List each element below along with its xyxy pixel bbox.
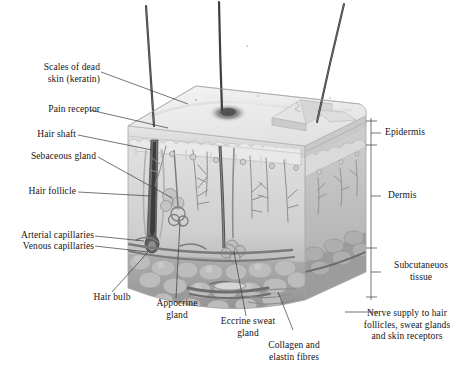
label-collagen-and-elastin-fibres: Collagen and elastin fibres [257,340,331,363]
skin-cross-section-figure: Scales of dead skin (keratin) Pain recep… [0,0,461,376]
label-sebaceous-gland: Sebaceous gland [8,151,96,163]
label-scales-of-dead-skin: Scales of dead skin (keratin) [8,62,100,85]
label-hair-shaft: Hair shaft [8,129,76,141]
label-eccrine-sweat-gland: Eccrine sweat gland [212,316,284,339]
label-hair-follicle: Hair follicle [8,186,76,198]
label-venous-capillaries: Venous capillaries [4,241,94,253]
label-appocrine-gland: Appocrine gland [146,298,208,321]
label-arterial-capillaries: Arterial capillaries [4,230,94,242]
label-nerve-supply: Nerve supply to hair follicles, sweat gl… [355,308,459,343]
label-epidermis: Epidermis [385,127,457,139]
label-subcutaneous-tissue: Subcutaneuos tissue [383,260,459,283]
label-hair-bulb: Hair bulb [82,292,142,304]
label-pain-receptor: Pain receptor [8,104,100,116]
label-dermis: Dermis [388,190,448,202]
